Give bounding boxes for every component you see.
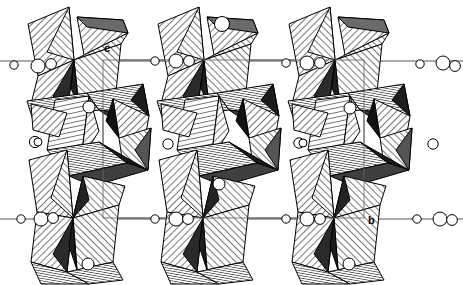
atom-lower-col3	[343, 258, 355, 270]
cluster-mid2-bottom	[282, 215, 290, 223]
atom-mid-c3	[299, 139, 307, 147]
crystal-structure-figure: cb	[0, 0, 463, 285]
atom-inner-col3	[344, 102, 356, 114]
cluster-left-top	[10, 61, 18, 69]
atom-lower-col1	[82, 258, 94, 270]
axis-label-c: c	[104, 42, 110, 54]
atom-inner-col2	[215, 17, 230, 32]
cluster-right-bottom	[413, 215, 421, 223]
cluster-mid2-top	[300, 56, 314, 70]
atom-mid-c1	[163, 139, 173, 149]
cluster-mid2-bottom	[300, 212, 314, 226]
cluster-left-bottom	[48, 213, 59, 224]
cluster-mid1-top	[169, 54, 183, 68]
cluster-mid1-bottom	[151, 215, 159, 223]
cluster-mid2-bottom	[315, 214, 326, 225]
crystal-structure-canvas: cb	[0, 0, 463, 285]
cluster-mid2-top	[282, 59, 290, 67]
cluster-mid1-bottom	[169, 212, 183, 226]
cluster-mid2-top	[315, 58, 326, 69]
cluster-right-bottom	[447, 215, 458, 226]
cluster-left-top	[46, 59, 57, 70]
cluster-right-top	[450, 61, 461, 72]
atom-lower-col2	[213, 178, 225, 190]
cluster-right-bottom	[433, 212, 447, 226]
cluster-right-top	[436, 56, 450, 70]
cluster-mid1-top	[151, 57, 159, 65]
cluster-mid1-top	[184, 56, 195, 67]
cluster-right-top	[416, 60, 424, 68]
axis-label-b: b	[368, 214, 375, 226]
cluster-left-bottom	[34, 212, 48, 226]
atom-mid-right	[428, 139, 438, 149]
cluster-left-bottom	[17, 215, 25, 223]
atom-inner-col1	[83, 101, 95, 113]
cluster-mid1-bottom	[183, 214, 194, 225]
cluster-left-top	[31, 59, 45, 73]
atom-mid-left2	[34, 138, 42, 146]
